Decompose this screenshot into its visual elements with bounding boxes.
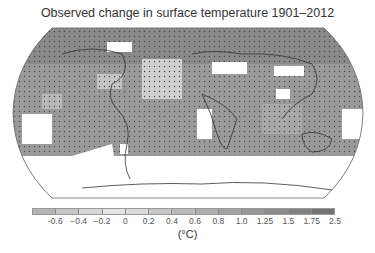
colorbar-segment — [289, 209, 312, 214]
colorbar — [32, 208, 335, 215]
colorbar-unit-label: (°C) — [0, 228, 375, 240]
colorbar-segment — [265, 209, 288, 214]
tick-label: 0.6 — [189, 216, 201, 226]
colorbar-ticks: -0.6 −0.4 −0.2 0 0.2 0.4 0.6 0.8 1.0 1.2… — [32, 216, 335, 228]
tick-label: 1.5 — [282, 216, 294, 226]
tick-label: 0.8 — [212, 216, 224, 226]
tick-label: 2.5 — [329, 216, 341, 226]
colorbar-segment — [149, 209, 172, 214]
tick-label: 1.75 — [303, 216, 320, 226]
colorbar-segment — [126, 209, 149, 214]
tick-label: 0.4 — [166, 216, 178, 226]
tick-label: 0 — [123, 216, 128, 226]
colorbar-segment — [242, 209, 265, 214]
colorbar-segment — [219, 209, 242, 214]
colorbar-segment — [172, 209, 195, 214]
colorbar-segment — [79, 209, 102, 214]
colorbar-segment — [33, 209, 56, 214]
tick-label: −0.4 — [70, 216, 87, 226]
colorbar-segment — [196, 209, 219, 214]
colorbar-segment — [103, 209, 126, 214]
colorbar-segment — [312, 209, 334, 214]
tick-label: 0.2 — [143, 216, 155, 226]
tick-label: 1.0 — [236, 216, 248, 226]
world-temperature-map — [12, 24, 364, 202]
tick-label: −0.2 — [94, 216, 111, 226]
tick-label: 1.25 — [257, 216, 274, 226]
colorbar-segment — [56, 209, 79, 214]
chart-title: Observed change in surface temperature 1… — [0, 6, 375, 20]
tick-label: -0.6 — [48, 216, 63, 226]
